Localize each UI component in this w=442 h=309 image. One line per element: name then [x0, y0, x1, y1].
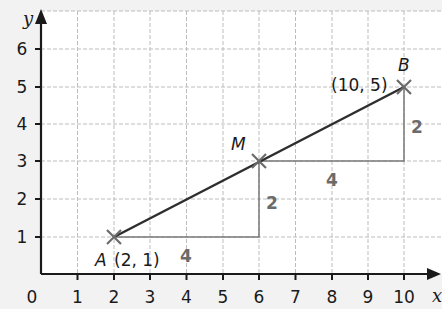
svg-text:2: 2 [109, 287, 120, 307]
rise-label-1: 2 [266, 193, 278, 213]
svg-text:3: 3 [145, 287, 156, 307]
graph-svg: 0 1 2 3 4 5 6 7 8 9 10 x 1 2 3 4 5 6 y A… [0, 0, 442, 309]
svg-text:4: 4 [181, 287, 192, 307]
x-axis-label: x [432, 285, 442, 306]
point-m-name: M [231, 134, 246, 154]
coordinate-diagram: 0 1 2 3 4 5 6 7 8 9 10 x 1 2 3 4 5 6 y A… [0, 0, 442, 309]
svg-text:5: 5 [17, 77, 28, 97]
svg-text:4: 4 [17, 114, 28, 134]
svg-text:6: 6 [254, 287, 265, 307]
rise-label-2: 2 [411, 117, 423, 137]
svg-text:5: 5 [218, 287, 229, 307]
y-tick-labels: 1 2 3 4 5 6 [17, 39, 28, 247]
run-label-1: 4 [180, 246, 192, 266]
point-b-name: B [398, 55, 410, 75]
svg-text:9: 9 [363, 287, 374, 307]
point-b-coords: (10, 5) [331, 75, 388, 95]
run-label-2: 4 [326, 170, 338, 190]
svg-text:7: 7 [290, 287, 301, 307]
svg-text:1: 1 [72, 287, 83, 307]
x-tick-labels: 0 1 2 3 4 5 6 7 8 9 10 [27, 287, 415, 307]
point-a-coords: (2, 1) [114, 250, 160, 270]
svg-text:3: 3 [17, 151, 28, 171]
svg-text:8: 8 [327, 287, 338, 307]
svg-text:10: 10 [393, 287, 415, 307]
svg-text:2: 2 [17, 189, 28, 209]
svg-text:0: 0 [27, 287, 38, 307]
svg-text:6: 6 [17, 39, 28, 59]
svg-text:1: 1 [17, 227, 28, 247]
point-a-name: A [94, 250, 107, 270]
y-axis-label: y [22, 8, 34, 29]
